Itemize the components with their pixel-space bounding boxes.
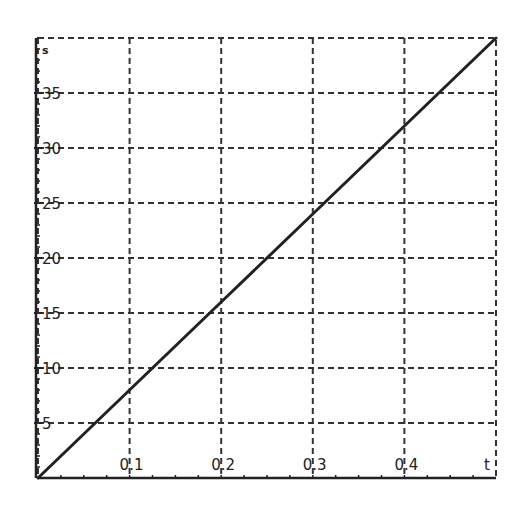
data-series bbox=[38, 38, 496, 478]
y-tick-label: 25 bbox=[42, 195, 61, 213]
x-tick-label: 0.2 bbox=[211, 456, 235, 474]
y-tick-label: 10 bbox=[42, 360, 61, 378]
x-axis-label: t bbox=[484, 456, 490, 474]
y-axis-label: s bbox=[42, 44, 49, 57]
y-tick-label: 35 bbox=[42, 85, 61, 103]
x-tick-labels: 0.10.20.30.4 bbox=[120, 456, 419, 474]
y-tick-label: 15 bbox=[42, 305, 61, 323]
y-tick-label: 5 bbox=[42, 415, 52, 433]
minor-ticks bbox=[34, 49, 473, 479]
series-line bbox=[38, 38, 496, 478]
x-tick-label: 0.1 bbox=[120, 456, 144, 474]
x-tick-label: 0.4 bbox=[394, 456, 418, 474]
y-tick-label: 30 bbox=[42, 140, 61, 158]
line-chart: 0.10.20.30.4 5101520253035 s t bbox=[0, 0, 520, 508]
y-tick-labels: 5101520253035 bbox=[42, 85, 61, 433]
y-tick-label: 20 bbox=[42, 250, 61, 268]
x-tick-label: 0.3 bbox=[303, 456, 327, 474]
